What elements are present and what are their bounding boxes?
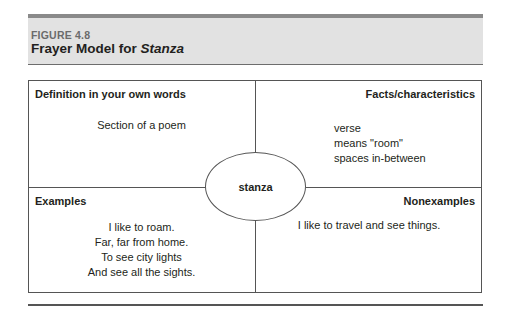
figure-title: Frayer Model for Stanza <box>31 41 184 56</box>
facts-line: verse <box>334 121 426 136</box>
definition-heading: Definition in your own words <box>35 88 186 100</box>
bottom-rule <box>28 304 483 306</box>
figure-header: FIGURE 4.8 Frayer Model for Stanza <box>28 18 483 65</box>
nonexamples-heading: Nonexamples <box>403 195 475 207</box>
facts-line: spaces in-between <box>334 151 426 166</box>
examples-line: Far, far from home. <box>28 235 255 250</box>
nonexamples-line: I like to travel and see things. <box>256 218 482 233</box>
horizontal-divider-right <box>306 187 482 188</box>
nonexamples-body: I like to travel and see things. <box>256 218 482 233</box>
vertical-divider-top <box>255 80 256 152</box>
center-term: stanza <box>238 181 272 193</box>
examples-line: I like to roam. <box>28 220 255 235</box>
facts-line: means "room" <box>334 136 426 151</box>
figure-title-term: Stanza <box>141 41 185 56</box>
horizontal-divider-left <box>28 187 206 188</box>
figure-label: FIGURE 4.8 <box>31 29 90 41</box>
examples-body: I like to roam. Far, far from home. To s… <box>28 220 255 280</box>
facts-body: verse means "room" spaces in-between <box>334 121 426 166</box>
facts-heading: Facts/characteristics <box>366 88 475 100</box>
center-term-ellipse: stanza <box>205 152 306 221</box>
examples-heading: Examples <box>35 195 86 207</box>
definition-line: Section of a poem <box>28 118 255 133</box>
figure-title-prefix: Frayer Model for <box>31 41 141 56</box>
examples-line: To see city lights <box>28 250 255 265</box>
definition-body: Section of a poem <box>28 118 255 133</box>
examples-line: And see all the sights. <box>28 265 255 280</box>
